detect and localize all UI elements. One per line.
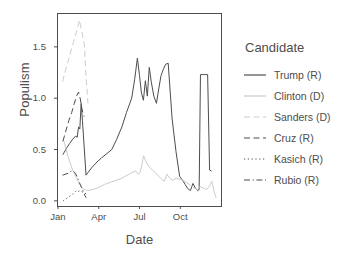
y-tick-label: 0.0 [22, 196, 46, 206]
series-line-trump-r [63, 58, 212, 190]
legend-key-cruz-r [243, 131, 267, 145]
y-tick-label: 1.5 [22, 42, 46, 52]
series-line-clinton-d [63, 139, 216, 198]
legend-label-clinton-d: Clinton (D) [274, 90, 324, 102]
x-tick-label: Oct [160, 211, 200, 222]
legend-label-trump-r: Trump (R) [274, 69, 321, 81]
legend-key-rubio-r [243, 173, 267, 187]
legend-items: Trump (R)Clinton (D)Sanders (D)Cruz (R)K… [243, 64, 341, 190]
legend-item-sanders-d[interactable]: Sanders (D) [243, 106, 341, 127]
x-axis-title: Date [57, 232, 222, 247]
legend-label-kasich-r: Kasich (R) [274, 153, 323, 165]
legend-label-rubio-r: Rubio (R) [274, 174, 319, 186]
legend-item-cruz-r[interactable]: Cruz (R) [243, 127, 341, 148]
x-axis-tick-labels: JanAprJulOct [0, 211, 341, 225]
legend-item-clinton-d[interactable]: Clinton (D) [243, 85, 341, 106]
plot-area [58, 14, 221, 206]
x-tick-label: Apr [79, 211, 119, 222]
series-line-rubio-r [63, 171, 86, 198]
legend-label-cruz-r: Cruz (R) [274, 132, 314, 144]
legend-key-sanders-d [243, 110, 267, 124]
y-tick-label: 1.0 [22, 93, 46, 103]
legend-key-clinton-d [243, 89, 267, 103]
x-tick-label: Jul [120, 211, 160, 222]
legend-key-kasich-r [243, 152, 267, 166]
legend-label-sanders-d: Sanders (D) [274, 111, 331, 123]
legend-item-kasich-r[interactable]: Kasich (R) [243, 148, 341, 169]
plot-panel [57, 13, 222, 207]
legend: Candidate Trump (R)Clinton (D)Sanders (D… [243, 40, 341, 190]
populism-line-chart: Populism 0.00.51.01.5 JanAprJulOct Date … [0, 0, 341, 260]
series-line-sanders-d [63, 20, 88, 103]
y-tick-label: 0.5 [22, 145, 46, 155]
legend-title: Candidate [245, 40, 341, 55]
legend-item-trump-r[interactable]: Trump (R) [243, 64, 341, 85]
legend-key-trump-r [243, 68, 267, 82]
legend-item-rubio-r[interactable]: Rubio (R) [243, 169, 341, 190]
x-tick-label: Jan [38, 211, 78, 222]
